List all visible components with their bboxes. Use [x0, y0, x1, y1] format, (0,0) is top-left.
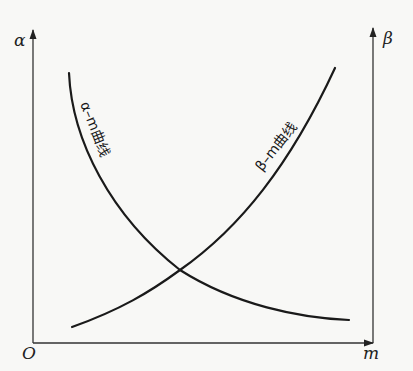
alpha-curve-label: α–m曲线: [77, 99, 114, 159]
diagram-canvas: α β m O α–m曲线 β–m曲线: [0, 0, 413, 371]
diagram-svg: α β m O α–m曲线 β–m曲线: [0, 0, 413, 371]
alpha-m-curve: [69, 73, 349, 320]
alpha-axis-label: α: [14, 30, 26, 50]
origin-label: O: [22, 343, 36, 363]
m-axis-label: m: [363, 343, 379, 363]
beta-axis-label: β: [382, 28, 393, 48]
